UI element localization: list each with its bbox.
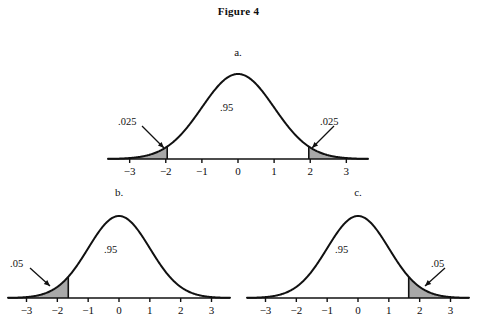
tick-label-a-1: −2 [160,165,172,177]
panel-c-curve [247,200,469,312]
panel-a-center-label: .95 [220,102,233,113]
panel-a-left-tail-label: .025 [118,116,136,127]
tick-label-b-6: 3 [209,304,215,316]
panel-a-right-tail-label: .025 [320,116,338,127]
panel-a-letter: a. [108,46,368,58]
panel-b-center-label: .95 [104,244,117,255]
tick-label-b-5: 2 [178,304,184,316]
tick-label-a-6: 3 [344,165,350,177]
tick-label-c-4: 1 [386,304,392,316]
tick-label-b-0: −3 [21,304,33,316]
tick-label-c-0: −3 [260,304,272,316]
panel-b-letter: b. [8,186,230,198]
tick-label-c-6: 3 [448,304,454,316]
figure-title: Figure 4 [0,5,477,17]
panel-b: b. .05 .95 −3−2−10123 [8,186,230,312]
tick-label-c-1: −2 [290,304,302,316]
tick-label-a-5: 2 [307,165,313,177]
tick-label-c-3: 0 [355,304,361,316]
panel-b-curve [8,200,230,312]
tick-label-a-3: 0 [235,165,241,177]
panel-b-left-tail-label: .05 [10,258,23,269]
tick-label-a-4: 1 [271,165,277,177]
panel-c-right-tail-label: .05 [431,258,444,269]
tick-label-c-2: −1 [321,304,333,316]
tick-label-b-2: −1 [82,304,94,316]
tick-label-b-4: 1 [147,304,153,316]
tick-label-a-0: −3 [124,165,136,177]
tick-label-a-2: −1 [196,165,208,177]
tick-label-c-5: 2 [417,304,423,316]
figure-page: Figure 4 a. .025 .95 .025 −3−2−10123 b. … [0,0,477,331]
panel-c-letter: c. [247,186,469,198]
panel-c: c. .95 .05 −3−2−10123 [247,186,469,312]
tick-label-b-3: 0 [116,304,122,316]
panel-c-center-label: .95 [335,244,348,255]
tick-label-b-1: −2 [51,304,63,316]
panel-a: a. .025 .95 .025 −3−2−10123 [108,46,368,176]
